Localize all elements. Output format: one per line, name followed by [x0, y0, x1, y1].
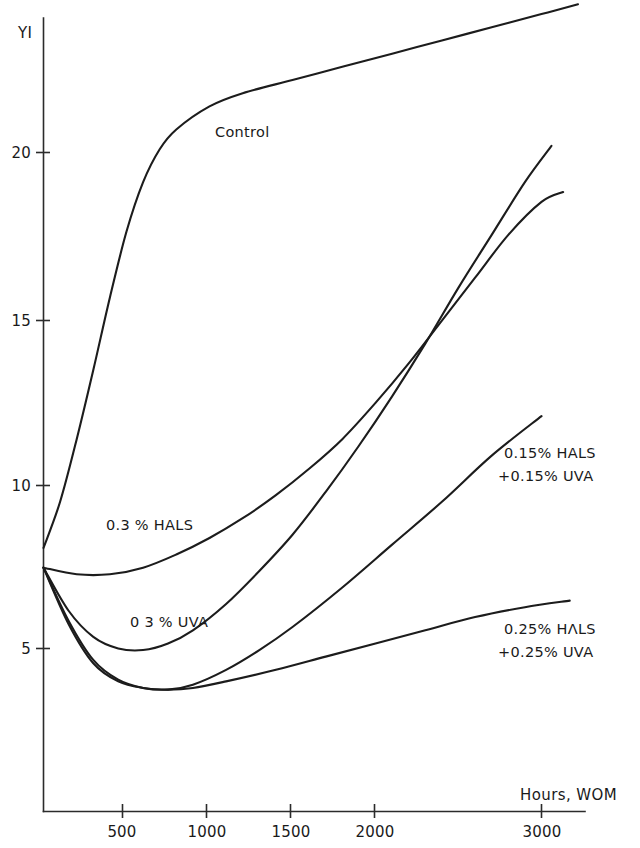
x-ticklabel-1000: 1000 [188, 823, 227, 841]
series-label-mix-025-a: 0.25% HΛLS [504, 621, 596, 637]
x-ticklabel-2000: 2000 [356, 823, 395, 841]
x-axis-title: Hours, WOM [520, 786, 617, 804]
y-axis-title: YI [17, 24, 32, 42]
series-label-mix-025-b: +0.25% UVA [498, 644, 593, 660]
series-label-mix-015-b: +0.15% UVA [498, 468, 593, 484]
x-ticklabel-1500: 1500 [272, 823, 311, 841]
x-ticklabel-500: 500 [107, 823, 136, 841]
chart-canvas: 20 15 10 5 500 1000 1500 2000 3000 YI Ho… [0, 0, 640, 848]
x-ticklabel-3000: 3000 [523, 823, 562, 841]
series-label-mix-015-a: 0.15% HALS [504, 445, 596, 461]
series-label-hals-03: 0.3 % HALS [106, 517, 193, 533]
curve-mix-025 [44, 568, 570, 690]
y-ticklabel-20: 20 [12, 144, 32, 162]
y-ticklabel-15: 15 [12, 312, 32, 330]
curve-uva-03 [44, 146, 552, 651]
chart-figure: 20 15 10 5 500 1000 1500 2000 3000 YI Ho… [0, 0, 640, 848]
y-ticklabel-5: 5 [21, 640, 31, 658]
series-label-uva-03: 0 3 % UVA [130, 614, 208, 630]
series-label-control: Control [215, 124, 270, 140]
y-ticklabel-10: 10 [12, 477, 32, 495]
